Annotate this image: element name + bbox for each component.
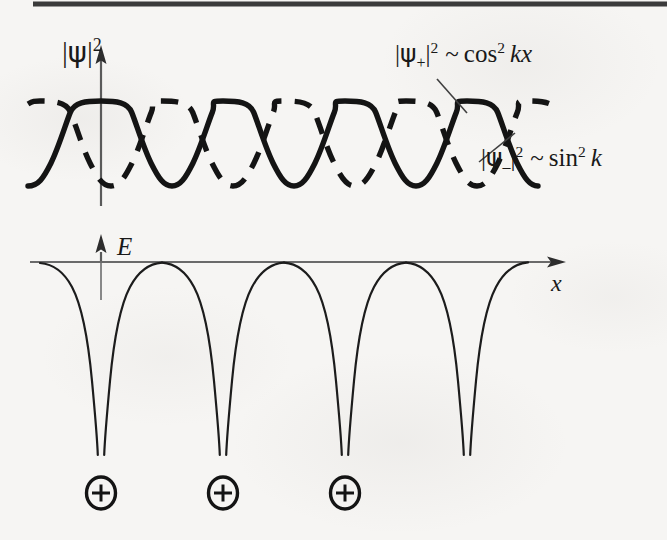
ion-marker	[87, 477, 116, 509]
potential-well-left-branch-2	[284, 263, 342, 455]
psi-glyph: ψ	[400, 39, 417, 68]
cos-function: cos	[464, 40, 497, 67]
x-axis-label: x	[551, 271, 562, 295]
sin-function: sin	[549, 144, 578, 171]
cos-argument: kx	[510, 40, 532, 67]
annotation-psi-minus: |ψ–|2~sin2k	[481, 145, 602, 170]
potential-well-right-branch-3	[470, 262, 528, 455]
cos-squared-curve	[28, 101, 538, 186]
minus-subscript: –	[503, 158, 511, 175]
probability-density-panel	[28, 45, 556, 206]
cos-exponent-two: 2	[497, 39, 505, 56]
sin-squared-curve	[28, 101, 556, 186]
leader-line-cos	[437, 79, 467, 113]
positive-ion-row	[87, 477, 360, 509]
potential-energy-panel	[30, 234, 566, 509]
coulomb-potential-curve	[40, 262, 528, 455]
potential-well-left-branch-0	[40, 263, 98, 455]
potential-well-right-branch-0	[104, 263, 162, 455]
sin-exponent-two: 2	[578, 143, 586, 160]
y-axis-label-energy: E	[117, 234, 132, 259]
energy-vertical-axis	[96, 234, 107, 300]
potential-well-right-branch-1	[226, 263, 284, 455]
potential-well-right-branch-2	[348, 263, 406, 455]
exponent-two: 2	[93, 35, 102, 55]
tilde-relation: ~	[530, 144, 544, 171]
figure-root: |ψ|2 E x |ψ+|2~cos2kx |ψ–|2~sin2k	[0, 0, 667, 540]
exponent-two: 2	[431, 39, 439, 56]
ion-marker	[331, 477, 360, 509]
energy-axis-arrowhead	[96, 234, 107, 253]
psi-glyph: ψ	[486, 143, 503, 172]
exponent-two: 2	[516, 143, 524, 160]
ion-marker	[209, 477, 238, 509]
figure-canvas	[0, 0, 667, 540]
tilde-relation: ~	[445, 40, 459, 67]
annotation-psi-plus: |ψ+|2~cos2kx	[395, 41, 532, 66]
psi-glyph: ψ	[68, 35, 87, 69]
y-axis-label-psi-squared: |ψ|2	[62, 38, 102, 67]
plus-subscript: +	[417, 54, 426, 71]
potential-well-left-branch-3	[406, 263, 464, 455]
potential-well-left-branch-1	[162, 263, 220, 455]
sin-argument: k	[591, 144, 602, 171]
